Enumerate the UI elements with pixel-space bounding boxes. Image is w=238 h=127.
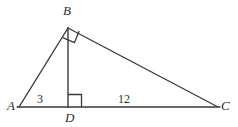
segment-length-dc: 12	[118, 93, 130, 105]
vertex-label-c: C	[221, 99, 230, 112]
segment-ab	[19, 28, 68, 107]
vertex-label-a: A	[7, 99, 15, 112]
segment-bc	[68, 28, 218, 107]
triangle-diagram-svg	[0, 0, 238, 127]
geometry-figure: A B C D 3 12	[0, 0, 238, 127]
right-angle-mark-d	[68, 95, 82, 108]
segment-length-ad: 3	[37, 93, 43, 105]
vertex-label-b: B	[63, 4, 71, 17]
vertex-label-d: D	[65, 111, 74, 124]
